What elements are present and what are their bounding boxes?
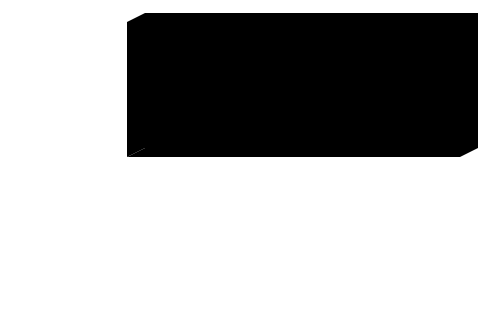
x-axis-tick-labels <box>0 0 490 312</box>
chart-container <box>0 0 490 312</box>
